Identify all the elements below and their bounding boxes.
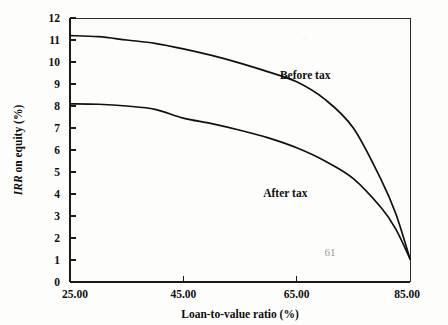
series-label-after-tax: After tax xyxy=(263,187,307,199)
x-tick-label: 85.00 xyxy=(394,288,420,300)
series-line-before-tax xyxy=(70,36,410,259)
x-tick-label: 45.00 xyxy=(170,288,196,300)
y-tick-label: 0 xyxy=(54,276,60,288)
series-line-after-tax xyxy=(70,104,410,259)
data-series-group xyxy=(70,36,410,259)
y-tick-label: 7 xyxy=(54,122,60,134)
x-tick-label: 65.00 xyxy=(284,288,310,300)
figure-page: 0123456789101112 25.0045.0065.0085.00 Be… xyxy=(0,0,448,325)
x-axis-ticks: 25.0045.0065.0085.00 xyxy=(62,276,420,300)
y-axis-title: IRR on equity (%) xyxy=(12,105,25,197)
y-tick-label: 6 xyxy=(54,144,60,156)
y-tick-label: 9 xyxy=(54,78,60,90)
y-tick-label: 4 xyxy=(54,188,60,200)
page-number: 61 xyxy=(325,246,336,258)
series-label-before-tax: Before tax xyxy=(280,69,331,81)
y-tick-label: 5 xyxy=(54,166,60,178)
y-axis-ticks: 0123456789101112 xyxy=(49,12,77,288)
y-tick-label: 1 xyxy=(54,254,60,266)
y-tick-label: 11 xyxy=(49,34,60,46)
y-tick-label: 12 xyxy=(49,12,61,24)
irr-line-chart: 0123456789101112 25.0045.0065.0085.00 Be… xyxy=(0,0,448,325)
y-tick-label: 2 xyxy=(54,232,60,244)
series-annotations-group: Before taxAfter tax xyxy=(263,69,330,200)
y-tick-label: 8 xyxy=(54,100,60,112)
plot-frame xyxy=(70,18,410,282)
y-tick-label: 10 xyxy=(49,56,61,68)
y-tick-label: 3 xyxy=(54,210,60,222)
x-tick-label: 25.00 xyxy=(62,288,88,300)
x-axis-title: Loan-to-value ratio (%) xyxy=(181,308,299,321)
